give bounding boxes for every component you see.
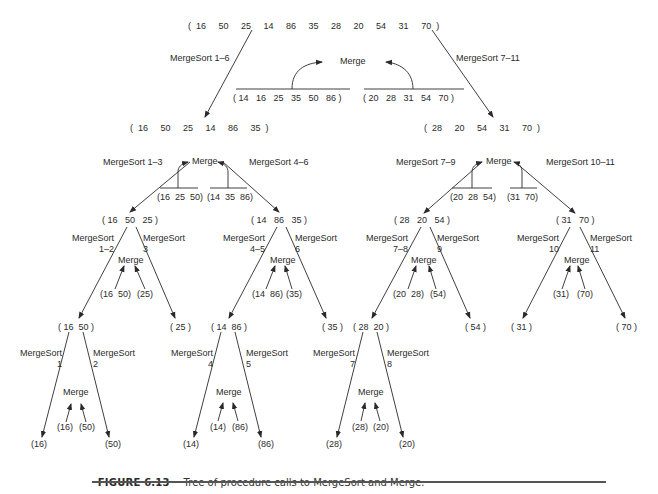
call-label-mergesort-10-11: MergeSort 10–11 [546,157,615,168]
merge-l-left-input: (16 25 50) [157,193,203,202]
call-arrow-mergesort-7-11 [432,30,493,117]
merge-label-lll: Merge [63,388,89,397]
merge-brace-r-right [510,162,537,188]
call-label-mergesort-11: MergeSort 11 [590,233,632,255]
merge-label-r: Merge [486,157,512,166]
call-arrow-mergesort-4-6 [223,162,279,212]
merge-label-l: Merge [192,157,218,166]
node-lrr-array: ( 35 ) [322,323,343,332]
merge-ll-right-input: (25) [137,290,153,299]
leaf-50: (50) [105,440,121,449]
merge-arrow-rr-right [578,266,585,289]
call-label-mergesort-7-8: MergeSort 7–8 [366,233,408,255]
call-label-mergesort-4-6: MergeSort 4–6 [249,157,309,168]
call-label-mergesort-8: MergeSort 8 [387,348,429,370]
merge-brace-root-right [364,62,464,89]
merge-rl-left-input: (20 28) [393,290,424,299]
merge-rll-right-input: (20) [373,423,389,432]
call-label-mergesort-1-3: MergeSort 1–3 [103,157,163,168]
call-label-mergesort-6: MergeSort 6 [295,233,337,255]
merge-lrl-left-input: (14) [210,423,226,432]
call-label-mergesort-1: MergeSort 1 [20,348,62,370]
node-rl-array: ( 28 20 54 ) [394,216,450,225]
node-rr-array: ( 31 70 ) [556,216,595,225]
call-label-mergesort-7-9: MergeSort 7–9 [396,157,456,168]
merge-arrow-rll-right [375,403,380,421]
merge-label-rll: Merge [358,388,384,397]
figure-caption: FIGURE 6.13Tree of procedure calls to Me… [92,464,424,488]
merge-arrow-ll-left [115,266,124,289]
node-left-array: ( 16 50 25 14 86 35 ) [130,124,269,133]
merge-label-root: Merge [340,57,366,66]
call-label-mergesort-1-2: MergeSort 1–2 [72,233,114,255]
merge-root-right-result: ( 20 28 31 54 70 ) [363,94,454,103]
node-lrl-array: ( 14 86 ) [211,323,247,332]
merge-l-right-input: (14 35 86) [207,193,253,202]
merge-arrow-lr-left [266,266,275,289]
call-label-mergesort-2: MergeSort 2 [93,348,135,370]
node-rrr-array: ( 70 ) [616,323,637,332]
leaf-20: (20) [399,440,415,449]
merge-arrow-rll-left [361,403,365,421]
call-label-mergesort-4-5: MergeSort 4–5 [223,233,265,255]
merge-rl-right-input: (54) [430,290,446,299]
node-rrl-array: ( 31 ) [511,323,532,332]
merge-lll-right-input: (50) [79,423,95,432]
merge-label-rr: Merge [564,256,590,265]
merge-arrow-lll-right [81,404,86,422]
merge-lr-left-input: (14 86) [252,290,283,299]
merge-rr-left-input: (31) [553,290,569,299]
leaf-16: (16) [31,440,47,449]
merge-arrow-rr-left [562,266,570,289]
merge-label-lrl: Merge [216,388,242,397]
call-label-mergesort-5: MergeSort 5 [246,348,288,370]
call-label-mergesort-7-11: MergeSort 7–11 [456,53,520,64]
node-ll-array: ( 16 50 25 ) [102,216,158,225]
call-label-mergesort-7: MergeSort 7 [313,348,355,370]
merge-label-ll: Merge [118,256,144,265]
merge-arrow-lll-left [66,404,71,422]
call-label-mergesort-3: MergeSort 3 [143,233,185,255]
node-root-array: ( 16 50 25 14 86 35 28 20 54 31 70 ) [188,22,439,31]
call-arrow-mergesort-10-11 [515,162,575,213]
call-label-mergesort-9: MergeSort 9 [437,233,479,255]
node-llr-array: ( 25 ) [170,323,191,332]
call-arrow-mergesort-1-6 [205,30,252,117]
call-label-mergesort-4: MergeSort 4 [171,348,213,370]
merge-root-left-result: ( 14 16 25 35 50 86 ) [233,94,342,103]
leaf-86: (86) [258,440,274,449]
merge-arrow-lrl-left [218,403,223,421]
node-lr-array: ( 14 86 35 ) [251,216,307,225]
merge-arrow-lr-right [285,266,292,289]
node-rll-array: ( 28 20 ) [353,323,389,332]
merge-ll-left-input: (16 50) [100,290,131,299]
merge-r-left-input: (20 28 54) [450,193,496,202]
merge-brace-root-left [236,62,350,89]
node-right-array: ( 28 20 54 31 70 ) [424,124,540,133]
call-label-mergesort-1-6: MergeSort 1–6 [170,53,230,64]
merge-arrow-rl-right [429,266,436,289]
merge-lr-right-input: (35) [286,290,302,299]
node-rlr-array: ( 54 ) [465,323,486,332]
merge-lrl-right-input: (86) [232,423,248,432]
caption-rule [92,481,606,483]
merge-r-right-input: (31 70) [507,193,538,202]
leaf-14: (14) [183,440,199,449]
node-lll-array: ( 16 50 ) [58,323,94,332]
leaf-28: (28) [326,440,342,449]
merge-arrow-rl-left [408,266,416,289]
merge-arrow-lrl-right [233,403,238,421]
merge-rr-right-input: (70) [577,290,593,299]
call-label-mergesort-10: MergeSort 10 [517,233,559,255]
merge-label-rl: Merge [411,256,437,265]
merge-rll-left-input: (28) [352,423,368,432]
merge-label-lr: Merge [270,256,296,265]
merge-arrow-ll-right [135,266,145,289]
merge-lll-left-input: (16) [57,423,73,432]
call-arrow-mergesort-7-9-d [424,162,482,213]
call-arrow-mergesort-1-3 [130,162,190,212]
